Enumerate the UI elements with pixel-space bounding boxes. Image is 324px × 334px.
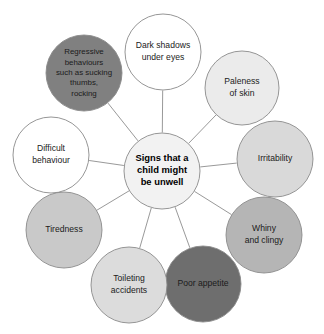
node-label-tiredness: Tiredness xyxy=(45,224,82,234)
node-regressive-behaviours[interactable]: Regressivebehaviourssuch as suckingthumb… xyxy=(46,35,122,111)
spoke-regressive-behaviours xyxy=(108,103,138,141)
node-group: Dark shadowsunder eyesPalenessof skinIrr… xyxy=(13,14,313,323)
spoke-irritability xyxy=(200,163,236,167)
node-label-dark-shadows-under-eyes: Dark shadowsunder eyes xyxy=(136,41,190,62)
center-node[interactable]: Signs that achild mightbe unwell xyxy=(124,133,200,209)
node-whiny-and-clingy[interactable]: Whinyand clingy xyxy=(226,197,302,273)
node-label-difficult-behaviour: Difficultbehaviour xyxy=(32,144,70,165)
node-label-toileting-accidents: Toiletingaccidents xyxy=(111,274,147,295)
center-node-label: Signs that achild mightbe unwell xyxy=(135,152,189,188)
spoke-poor-appetite xyxy=(175,207,190,248)
mind-map-diagram: Dark shadowsunder eyesPalenessof skinIrr… xyxy=(0,0,324,334)
node-difficult-behaviour[interactable]: Difficultbehaviour xyxy=(13,117,89,193)
mind-map-canvas: Dark shadowsunder eyesPalenessof skinIrr… xyxy=(0,0,324,334)
spoke-tiredness xyxy=(97,191,129,210)
node-paleness-of-skin[interactable]: Palenessof skin xyxy=(205,51,279,125)
node-dark-shadows-under-eyes[interactable]: Dark shadowsunder eyes xyxy=(125,14,201,90)
node-tiredness[interactable]: Tiredness xyxy=(26,192,102,268)
node-label-paleness-of-skin: Palenessof skin xyxy=(224,77,259,98)
spoke-paleness-of-skin xyxy=(189,115,216,143)
node-toileting-accidents[interactable]: Toiletingaccidents xyxy=(91,247,167,323)
node-poor-appetite[interactable]: Poor appetite xyxy=(165,246,241,322)
node-label-poor-appetite: Poor appetite xyxy=(177,278,228,288)
spoke-whiny-and-clingy xyxy=(195,191,232,214)
node-irritability[interactable]: Irritability xyxy=(237,121,313,197)
spoke-difficult-behaviour xyxy=(89,160,124,165)
node-label-irritability: Irritability xyxy=(258,153,293,163)
spoke-toileting-accidents xyxy=(140,208,152,248)
